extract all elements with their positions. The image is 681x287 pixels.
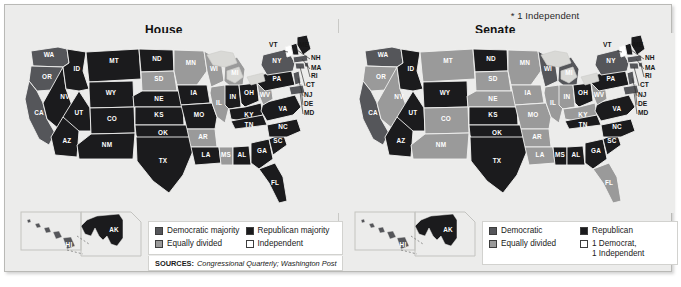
legend-swatch-equally-divided [155,240,163,248]
state-label-nd: ND [486,55,496,62]
state-label-ga: GA [257,147,267,154]
callout-label-de: DE [304,100,314,107]
callout-label-vt: VT [269,41,277,48]
state-label-wv: WV [594,91,605,98]
state-label-mo: MO [194,111,205,118]
state-label-co: CO [107,115,117,122]
state-label-nm: NM [102,141,112,148]
state-label-hi: HI [66,241,73,248]
state-label-fl: FL [271,179,279,186]
hawaii-island-1 [361,219,365,223]
legend-swatch-republican [580,227,588,235]
callout-label-ct: CT [640,81,649,88]
state-label-ok: OK [492,129,502,136]
state-label-nv: NV [394,93,404,100]
state-label-or: OR [376,73,386,80]
state-label-ne: NE [154,95,164,102]
state-label-or: OR [42,73,52,80]
state-label-ar: AR [532,133,542,140]
state-label-wa: WA [378,51,389,58]
state-label-in: IN [564,93,571,100]
state-label-sd: SD [154,75,163,82]
state-label-sd: SD [488,75,497,82]
state-label-il: IL [216,99,222,106]
callout-label-ma: MA [645,64,655,71]
state-label-nc: NC [278,123,288,130]
state-label-ms: MS [221,151,232,158]
state-nj [627,71,635,85]
state-label-wa: WA [44,51,55,58]
state-label-ga: GA [591,147,601,154]
callout-label-md: MD [638,109,648,116]
state-label-nm: NM [436,141,446,148]
state-label-az: AZ [63,137,72,144]
state-label-id: ID [408,65,415,72]
state-label-mt: MT [443,57,453,64]
legend-swatch-democratic [489,227,497,235]
hawaii-island-1 [27,219,31,223]
state-label-wi: WI [544,65,552,72]
legend-item-equally-divided: Equally divided [489,239,580,249]
state-label-ny: NY [606,57,616,64]
state-label-sc: SC [607,137,616,144]
state-mt [86,49,141,82]
legend-label-line2: 1 Independent [592,249,644,258]
callout-label-de: DE [638,100,648,107]
state-label-wy: WY [440,89,451,96]
state-label-mi: MI [231,69,239,76]
state-mt [420,49,475,82]
legend-swatch-republican [246,227,254,235]
legend-item-independent: Independent [246,239,337,249]
state-label-ia: IA [191,89,198,96]
legend-item-democratic: Democratic [489,226,580,236]
state-label-ca: CA [34,109,44,116]
state-label-mn: MN [186,59,197,66]
state-label-ks: KS [488,111,498,118]
state-label-nc: NC [612,123,622,130]
state-label-la: LA [202,151,211,158]
legend-label: 1 Democrat,1 Independent [592,239,644,258]
sources-value: Congressional Quarterly; Washington Post [197,259,337,268]
legend-label: Independent [258,239,304,249]
state-label-mo: MO [528,111,539,118]
state-label-ia: IA [525,89,532,96]
state-label-tx: TX [493,157,502,164]
state-label-al: AL [238,151,247,158]
callout-label-md: MD [304,109,314,116]
state-label-al: AL [572,151,581,158]
state-label-ne: NE [488,95,498,102]
state-label-mn: MN [520,59,531,66]
legend-item-equally-divided: Equally divided [155,239,246,249]
sources-label: SOURCES: [155,259,194,268]
state-label-ar: AR [198,133,208,140]
state-label-tx: TX [159,157,168,164]
state-label-ks: KS [154,111,164,118]
state-label-ok: OK [158,129,168,136]
state-label-mt: MT [109,57,119,64]
state-label-pa: PA [607,75,616,82]
senate-choropleth-map: WAORCANVIDMTWYUTAZNMCONDSDNEKSOKTXMNIAMO… [345,33,675,213]
state-label-hi: HI [400,241,407,248]
callout-label-vt: VT [603,41,611,48]
house-choropleth-map: WAORCANVIDMTWYUTAZNMCONDSDNEKSOKTXMNIAMO… [11,33,341,213]
legend-label: Democratic majority [167,226,239,236]
state-label-ca: CA [368,109,378,116]
state-label-ky: KY [578,111,588,118]
callout-label-ma: MA [311,64,321,71]
state-label-va: VA [613,105,622,112]
state-label-sc: SC [273,137,282,144]
state-label-az: AZ [397,137,406,144]
state-label-ak: AK [109,226,119,233]
state-label-tn: TN [579,121,588,128]
state-nj [293,71,301,85]
callout-label-me: ME [633,41,643,48]
state-label-mi: MI [565,69,573,76]
state-label-wy: WY [106,89,117,96]
callout-label-nh: NH [645,54,655,61]
callout-label-me: ME [299,41,309,48]
state-label-la: LA [536,151,545,158]
state-label-nd: ND [152,55,162,62]
figure-root: * 1 Independent House Senate WAORCANVIDM… [0,0,681,287]
state-label-ut: UT [75,109,84,116]
legend-item-one-democrat-one-independent: 1 Democrat,1 Independent [580,239,671,258]
